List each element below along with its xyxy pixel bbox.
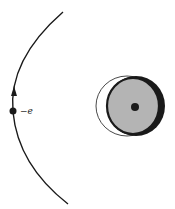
nucleus-dot	[131, 103, 139, 111]
polarization-diagram: −e	[0, 0, 175, 209]
arrow-up-icon	[11, 86, 17, 96]
electron-label: −e	[20, 106, 33, 116]
electron-dot	[10, 108, 17, 115]
